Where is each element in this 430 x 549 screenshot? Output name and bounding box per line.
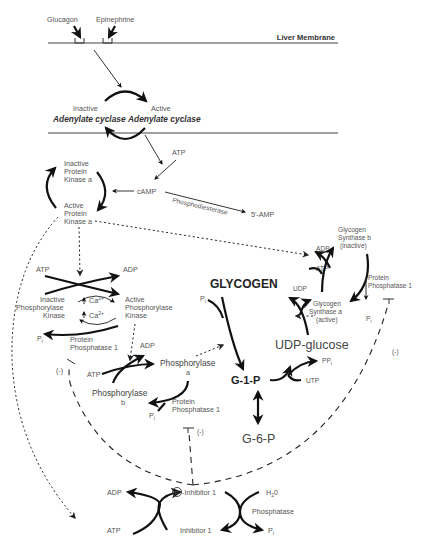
- svg-text:Pi: Pi: [200, 294, 206, 304]
- hormone-epinephrine: Epinephrine: [96, 15, 134, 24]
- svg-text:(active): (active): [316, 316, 338, 324]
- camp-atp-label: ATP: [172, 148, 186, 157]
- svg-text:UTP: UTP: [306, 377, 320, 384]
- svg-text:H20: H20: [266, 488, 278, 498]
- svg-text:Glycogen: Glycogen: [313, 300, 341, 308]
- camp-production: ATP cAMP Phosphodiesterase 5'-AMP: [113, 135, 275, 219]
- svg-text:ADP: ADP: [107, 488, 122, 497]
- glycogen-regulation-diagram: Glucagon Epinephrine Liver Membrane Inac…: [0, 0, 430, 549]
- glucagon-receptor-icon: [75, 38, 84, 43]
- svg-text:Phosphatase 1: Phosphatase 1: [70, 343, 118, 352]
- cyclase-active-name: Adenylate cyclase: [127, 114, 201, 124]
- svg-text:a: a: [186, 368, 190, 377]
- svg-text:ATP: ATP: [36, 265, 50, 274]
- hormone-glucagon: Glucagon: [47, 15, 78, 24]
- phosphorylase-cycle: ADP ATP Phosphorylase a Phosphorylase b …: [56, 341, 223, 421]
- svg-text:Phosphatase 1: Phosphatase 1: [172, 405, 220, 414]
- svg-text:P: P: [175, 490, 179, 496]
- svg-text:Kinase: Kinase: [125, 311, 147, 320]
- svg-text:-Inhibitor 1: -Inhibitor 1: [182, 488, 216, 497]
- svg-text:Phosphorylase: Phosphorylase: [92, 388, 148, 398]
- svg-text:Pi: Pi: [366, 315, 372, 324]
- svg-text:Synthase b: Synthase b: [338, 234, 371, 242]
- glycogen-synthase-cycle: Glycogen Synthase b (inactive) ADP ATP P…: [296, 226, 412, 356]
- receptor-to-cyclase-arrow: [94, 50, 121, 87]
- svg-text:Kinase a: Kinase a: [64, 175, 92, 184]
- svg-text:(-): (-): [197, 428, 204, 436]
- svg-text:Protein: Protein: [368, 274, 389, 281]
- camp-label: cAMP: [137, 187, 156, 196]
- svg-text:Synthase a: Synthase a: [309, 308, 342, 316]
- g6p-label: G-6-P: [242, 432, 275, 446]
- svg-text:Kinase a: Kinase a: [64, 217, 92, 226]
- svg-text:(inactive): (inactive): [340, 242, 367, 250]
- phosphorylase-a-activation: [196, 345, 223, 356]
- epinephrine-receptor-icon: [103, 38, 112, 43]
- svg-text:ADP: ADP: [140, 341, 155, 350]
- membrane-label: Liver Membrane: [277, 33, 335, 42]
- glycogen-label: GLYCOGEN: [210, 277, 278, 291]
- svg-text:Inhibitor 1: Inhibitor 1: [180, 526, 212, 535]
- svg-text:ATP: ATP: [87, 370, 101, 379]
- svg-text:Ca2+: Ca2+: [89, 295, 104, 305]
- svg-text:(-): (-): [392, 348, 399, 356]
- phosphodiesterase-label: Phosphodiesterase: [172, 196, 229, 217]
- glucagon-arrow: [74, 26, 80, 37]
- svg-text:Pi: Pi: [149, 411, 155, 421]
- svg-text:Ca2+: Ca2+: [89, 310, 104, 320]
- svg-text:Pi: Pi: [37, 334, 43, 344]
- svg-text:(-): (-): [56, 366, 63, 375]
- cyclase-inactive-state: Inactive: [73, 104, 98, 113]
- svg-text:ATP: ATP: [107, 526, 121, 535]
- svg-text:ADP: ADP: [123, 265, 138, 274]
- svg-text:Phosphorylase: Phosphorylase: [160, 358, 216, 368]
- cyclase-inactive-name: Adenylate cyclase: [52, 114, 126, 124]
- svg-text:Phosphatase: Phosphatase: [252, 507, 294, 516]
- five-amp-label: 5'-AMP: [251, 210, 275, 219]
- adenylate-cyclase-cycle: Inactive Active Adenylate cyclase Adenyl…: [52, 92, 201, 140]
- g1p-label: G-1-P: [231, 374, 260, 386]
- svg-text:Phosphatase 1: Phosphatase 1: [368, 282, 412, 290]
- svg-text:Glycogen: Glycogen: [338, 226, 366, 234]
- svg-text:ADP: ADP: [316, 245, 330, 252]
- protein-kinase-a-cycle: Inactive Protein Kinase a Active Protein…: [47, 159, 106, 226]
- udp-glucose-label: UDP-glucose: [275, 338, 349, 352]
- cyclase-active-state: Active: [151, 104, 171, 113]
- svg-text:PPi: PPi: [322, 357, 332, 366]
- svg-text:Kinase: Kinase: [43, 311, 65, 320]
- epinephrine-arrow: [109, 26, 115, 37]
- svg-text:Pi: Pi: [268, 526, 274, 536]
- phk-to-phosphorylase-arrow: [130, 324, 135, 360]
- svg-text:UDP: UDP: [293, 285, 308, 292]
- svg-text:b: b: [121, 398, 125, 407]
- inhibitor1-cycle: ADP ATP P -Inhibitor 1 Inhibitor 1 H20 P…: [107, 488, 294, 537]
